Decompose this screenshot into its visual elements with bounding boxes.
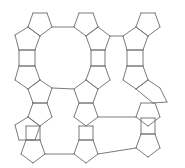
pentagon-tile [74,117,86,126]
pentagon-tile [40,140,45,154]
pentagon-tile [93,140,98,154]
pentagon-tile [47,88,52,103]
pentagon-tile [74,80,86,89]
pentagon-tile [74,154,86,163]
pentagon-tile [74,89,79,103]
pentagon-tile [28,89,33,103]
pentagon-tile [86,36,91,50]
pentagon-tile [74,27,86,36]
pentagon-tile [155,103,160,117]
pentagon-tile [143,36,148,50]
pentagon-tile [74,140,79,154]
pentagon-tile [148,148,160,157]
pentagon-tile [143,66,148,80]
pentagon-tile [105,66,110,80]
pentagon-tile [15,27,28,35]
pentagon-tile [15,66,19,80]
pentagon-tile [40,117,52,126]
pentagon-tile [33,154,45,163]
pentagon-tile [93,89,98,103]
pentagon-tile [123,27,136,36]
pentagon-tile [86,117,98,126]
tiling-diagram [0,0,185,168]
pentagon-tile [15,117,28,125]
pentagon-tile [28,103,33,117]
pentagon-tile [28,13,33,27]
pentagon-tile [15,125,19,140]
pentagon-tile [136,103,141,117]
pentagon-tile [21,154,33,163]
pentagon-tile [136,89,153,103]
pentagon-tile [74,13,79,27]
pentagon-tile [123,80,136,89]
pentagon-tile [40,80,52,88]
pentagon-tile [93,13,98,27]
pentagon-tile [47,13,52,27]
pentagon-tile [136,80,148,89]
pentagon-tile [35,66,40,80]
pentagon-tile [35,126,40,140]
pentagon-tile [160,88,167,102]
pentagon-tile [155,134,160,148]
pentagon-tile [136,27,148,36]
pentagon-tile [28,80,40,89]
pentagon-tile [15,80,28,89]
pentagon-tile [123,66,127,80]
connector-edge [98,148,136,154]
pentagon-tile [86,27,98,36]
connector-edge [52,88,74,89]
pentagon-tile [28,27,40,36]
pentagon-tile [40,27,52,36]
pentagon-tile [93,103,98,117]
pentagon-tile [136,148,148,157]
pentagon-tile [148,80,160,88]
pentagon-tile [136,134,141,148]
pentagon-tile [98,80,110,89]
pentagon-tile [15,35,19,50]
pentagon-tile [86,80,98,89]
pentagon-tile [148,27,160,36]
pentagon-tile [86,154,98,163]
pentagon-tile [155,13,160,27]
pentagon-tile [28,117,40,126]
pentagon-tile [21,140,26,154]
pentagon-tile [105,36,110,50]
pentagon-tile [74,103,79,117]
pentagon-tile [136,13,141,27]
pentagon-tile [123,36,127,50]
pentagon-tile [86,66,91,80]
pentagon-tile [98,27,110,36]
pentagon-tile [47,103,52,117]
pentagon-tile [35,36,40,50]
